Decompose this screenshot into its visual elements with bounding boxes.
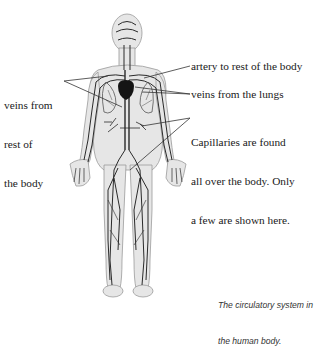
label-artery: artery to rest of the body xyxy=(191,60,302,73)
label-veins-rest-of-body-line2: rest of xyxy=(4,138,53,151)
label-capillaries-line2: all over the body. Only xyxy=(191,175,295,188)
label-capillaries-line1: Capillaries are found xyxy=(191,136,295,149)
figure-caption: The circulatory system in the human body… xyxy=(218,275,313,350)
label-veins-rest-of-body-line3: the body xyxy=(4,177,53,190)
label-veins-rest-of-body: veins from rest of the body xyxy=(4,73,53,203)
figure-caption-line1: The circulatory system in xyxy=(218,299,313,311)
label-capillaries: Capillaries are found all over the body.… xyxy=(191,110,295,240)
figure-caption-line2: the human body. xyxy=(218,335,313,347)
label-veins-from-lungs: veins from the lungs xyxy=(191,88,284,101)
body-silhouette xyxy=(70,14,186,297)
label-capillaries-line3: a few are shown here. xyxy=(191,214,295,227)
label-veins-rest-of-body-line1: veins from xyxy=(4,99,53,112)
